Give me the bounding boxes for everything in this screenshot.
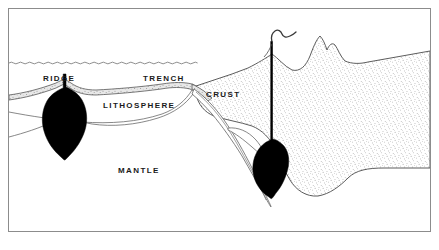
label-ridge: RIDGE xyxy=(43,74,75,83)
label-lithosphere: LITHOSPHERE xyxy=(103,101,175,110)
label-mantle: MANTLE xyxy=(118,166,160,175)
label-trench: TRENCH xyxy=(143,74,185,83)
label-crust: CRUST xyxy=(206,90,241,99)
plate-tectonics-diagram: RIDGE TRENCH LITHOSPHERE CRUST MANTLE xyxy=(0,0,439,250)
